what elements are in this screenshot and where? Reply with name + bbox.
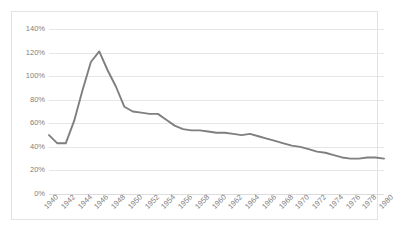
x-axis-tick-label: 1940 [43,193,60,210]
y-axis-tick-label: 20% [30,166,45,174]
plot-area [49,29,384,194]
data-series-line [49,29,384,194]
x-axis-labels: 1940194219441946194819501952195419561958… [49,196,384,234]
x-axis-tick-label: 1970 [294,193,311,210]
x-axis-tick-label: 1962 [227,193,244,210]
y-axis-labels: 140%120%100%80%60%40%20%0% [12,12,45,219]
x-axis-tick-label: 1948 [110,193,127,210]
x-axis-tick-label: 1944 [76,193,93,210]
chart-frame: 140%120%100%80%60%40%20%0% 1940194219441… [11,11,378,220]
x-axis-tick-label: 1954 [160,193,177,210]
x-axis-tick-label: 1946 [93,193,110,210]
x-axis-tick-label: 1958 [193,193,210,210]
x-axis-tick-label: 1952 [143,193,160,210]
x-axis-tick-label: 1960 [210,193,227,210]
y-axis-tick-label: 80% [30,96,45,104]
y-axis-tick-label: 100% [26,72,45,80]
y-axis-tick-label: 60% [30,119,45,127]
x-axis-tick-label: 1964 [244,193,261,210]
y-axis-tick-label: 120% [26,49,45,57]
y-axis-tick-label: 140% [26,25,45,33]
x-axis-tick-label: 1942 [59,193,76,210]
x-axis-tick-label: 1980 [378,193,395,210]
y-axis-tick-label: 40% [30,143,45,151]
x-axis-tick-label: 1972 [311,193,328,210]
x-axis-tick-label: 1956 [177,193,194,210]
x-axis-tick-label: 1950 [126,193,143,210]
x-axis-tick-label: 1978 [361,193,378,210]
x-axis-tick-label: 1968 [277,193,294,210]
y-axis-tick-label: 0% [34,190,45,198]
x-axis-tick-label: 1976 [344,193,361,210]
gridline [49,194,384,195]
x-axis-tick-label: 1974 [327,193,344,210]
x-axis-tick-label: 1966 [260,193,277,210]
